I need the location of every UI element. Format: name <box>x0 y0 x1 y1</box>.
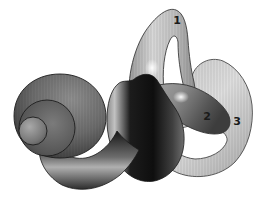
lateral-canal-highlight <box>173 91 189 103</box>
canal-label-3: 3 <box>233 115 241 128</box>
inner-ear-figure: 1 2 3 <box>0 0 263 198</box>
canal-label-1: 1 <box>173 14 181 27</box>
cochlea-apex-shape <box>19 117 47 145</box>
canal-label-2: 2 <box>203 110 211 123</box>
inner-ear-illustration: 1 2 3 <box>0 0 263 198</box>
